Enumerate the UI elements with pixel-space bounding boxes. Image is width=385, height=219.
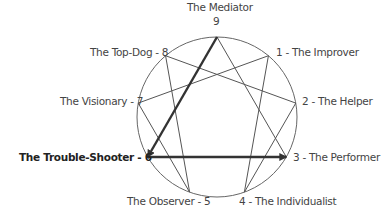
label-point-5: The Observer - 5	[127, 195, 210, 207]
label-point-4: 4 - The Individualist	[239, 195, 336, 207]
label-point-2: 2 - The Helper	[302, 95, 373, 107]
label-point-3: 3 - The Performer	[293, 151, 380, 163]
label-point-9-number: 9	[213, 15, 219, 27]
label-point-7: The Visionary - 7	[60, 95, 143, 107]
enneagram-diagram	[0, 0, 385, 219]
label-point-9: The Mediator	[187, 1, 253, 13]
label-point-6: The Trouble-Shooter - 6	[19, 151, 152, 163]
label-point-8: The Top-Dog - 8	[90, 46, 168, 58]
label-point-1: 1 - The Improver	[276, 46, 359, 58]
enneagram-circle	[137, 37, 297, 197]
